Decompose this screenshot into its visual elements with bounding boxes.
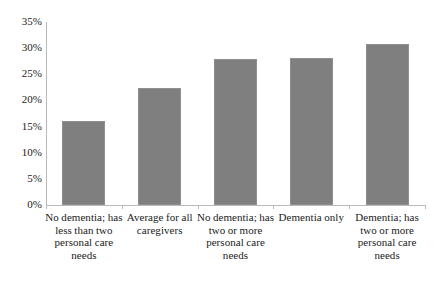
x-axis-category-label: Dementia only [272,211,350,224]
category-label-line: two or more [348,224,426,237]
category-label-line: caregivers [121,224,199,237]
x-axis-tick [198,205,199,209]
category-label-line: needs [348,249,426,262]
y-axis-tick-label: 5% [0,173,42,184]
x-axis-line [46,205,425,206]
category-label-line: two or more [197,224,275,237]
y-axis-tick-label: 15% [0,121,42,132]
plot-area [46,22,425,205]
category-label-line: personal care [348,236,426,249]
category-label-line: less than two [45,224,123,237]
category-label-line: No dementia; has [45,211,123,224]
x-axis-tick [273,205,274,209]
category-label-line: No dementia; has [197,211,275,224]
category-label-line: personal care [197,236,275,249]
category-label-line: Dementia only [272,211,350,224]
category-label-line: Dementia; has [348,211,426,224]
y-axis-tick-label: 30% [0,42,42,53]
x-axis-category-label: Average for allcaregivers [121,211,199,236]
y-axis-tick-label: 20% [0,94,42,105]
x-axis-category-label: No dementia; hasless than twopersonal ca… [45,211,123,261]
bar-chart: 0%5%10%15%20%25%30%35% No dementia; hasl… [0,0,448,283]
y-axis-tick-label: 25% [0,68,42,79]
bar [138,88,181,205]
x-axis-tick [349,205,350,209]
x-axis-tick [425,205,426,209]
bar [214,59,257,205]
category-label-line: needs [45,249,123,262]
bar [290,58,333,205]
y-axis-tick-label: 10% [0,147,42,158]
bar [366,44,409,205]
x-axis-category-label: No dementia; hastwo or morepersonal care… [197,211,275,261]
category-label-line: personal care [45,236,123,249]
y-axis-tick-label: 0% [0,199,42,210]
x-axis-tick [46,205,47,209]
category-label-line: needs [197,249,275,262]
bar [62,121,105,205]
y-axis-tick-label: 35% [0,16,42,27]
x-axis-tick [122,205,123,209]
x-axis-category-label: Dementia; hastwo or morepersonal carenee… [348,211,426,261]
category-label-line: Average for all [121,211,199,224]
